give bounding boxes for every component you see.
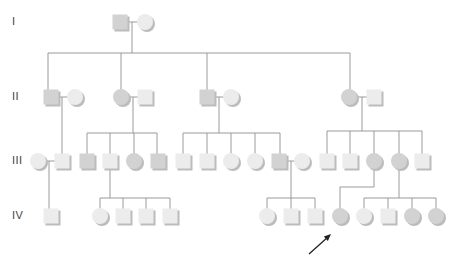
female-circle-icon: [332, 208, 350, 226]
female-circle-icon: [366, 153, 384, 171]
female-circle-icon: [259, 208, 277, 226]
male-square-icon: [44, 209, 61, 226]
female-circle-icon: [404, 208, 422, 226]
female-circle-icon: [428, 208, 446, 226]
female-circle-icon: [126, 153, 144, 171]
female-circle-icon: [341, 89, 359, 107]
female-circle-icon: [67, 89, 85, 107]
male-square-icon: [55, 154, 72, 171]
male-square-icon: [176, 154, 193, 171]
male-square-icon: [80, 154, 97, 171]
pedigree-chart: [0, 0, 449, 268]
female-circle-icon: [113, 89, 131, 107]
male-square-icon: [113, 15, 130, 32]
male-square-icon: [415, 154, 432, 171]
individuals: [30, 14, 446, 226]
male-square-icon: [272, 154, 289, 171]
male-square-icon: [367, 90, 384, 107]
male-square-icon: [308, 209, 325, 226]
male-square-icon: [138, 90, 155, 107]
female-circle-icon: [356, 208, 374, 226]
male-square-icon: [44, 90, 61, 107]
male-square-icon: [151, 154, 168, 171]
female-circle-icon: [391, 153, 409, 171]
female-circle-icon: [137, 14, 155, 32]
female-circle-icon: [294, 153, 312, 171]
male-square-icon: [116, 209, 133, 226]
male-square-icon: [103, 154, 120, 171]
female-circle-icon: [92, 208, 110, 226]
female-circle-icon: [223, 89, 241, 107]
male-square-icon: [343, 154, 360, 171]
male-square-icon: [163, 209, 180, 226]
male-square-icon: [381, 209, 398, 226]
female-circle-icon: [223, 153, 241, 171]
male-square-icon: [320, 154, 337, 171]
female-circle-icon: [30, 153, 48, 171]
descent-lines: [48, 22, 436, 209]
male-square-icon: [139, 209, 156, 226]
male-square-icon: [284, 209, 301, 226]
female-circle-icon: [247, 153, 265, 171]
male-square-icon: [200, 90, 217, 107]
male-square-icon: [200, 154, 217, 171]
proband-arrow-icon: [309, 234, 331, 254]
